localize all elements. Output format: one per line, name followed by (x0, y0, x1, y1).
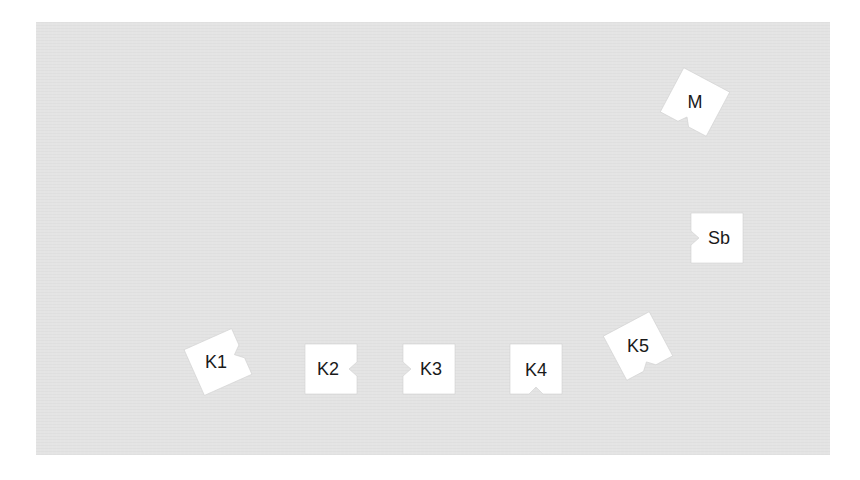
piece-k1[interactable]: K1 (184, 329, 252, 396)
piece-k3[interactable]: K3 (403, 344, 455, 394)
piece-k4[interactable]: K4 (510, 344, 562, 394)
piece-sb[interactable]: Sb (691, 213, 743, 263)
piece-label: M (669, 77, 721, 127)
piece-label: K3 (403, 344, 455, 394)
piece-m[interactable]: M (660, 68, 729, 137)
piece-k2[interactable]: K2 (305, 344, 357, 394)
piece-label: K5 (612, 321, 664, 371)
piece-label: K4 (510, 344, 562, 394)
piece-label: Sb (691, 213, 743, 263)
piece-label: K1 (192, 337, 244, 387)
piece-k5[interactable]: K5 (603, 312, 672, 381)
piece-label: K2 (305, 344, 357, 394)
